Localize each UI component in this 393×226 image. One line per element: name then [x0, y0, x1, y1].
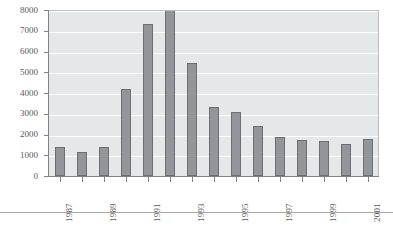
bar: [231, 112, 241, 176]
y-axis-tick-mark: [44, 52, 48, 53]
bar: [319, 141, 329, 176]
x-axis: 19871989199119931995199719992001: [0, 182, 393, 226]
bar: [187, 63, 197, 176]
bar-chart-figure: 010002000300040005000600070008000 198719…: [0, 0, 393, 226]
y-axis-tick-mark: [44, 72, 48, 73]
y-axis-tick-label: 6000: [0, 47, 38, 56]
y-axis-tick-label: 8000: [0, 6, 38, 15]
bar: [275, 137, 285, 176]
bottom-divider: [0, 212, 393, 213]
bar: [99, 147, 109, 176]
bar-series: [49, 11, 378, 176]
y-axis-tick-label: 5000: [0, 68, 38, 77]
bar: [209, 107, 219, 177]
bar: [297, 140, 307, 176]
bar: [165, 10, 175, 176]
y-axis-tick-mark: [44, 114, 48, 115]
y-axis-tick-label: 3000: [0, 109, 38, 118]
y-axis-tick-mark: [44, 31, 48, 32]
y-axis-tick-label: 7000: [0, 26, 38, 35]
y-axis-tick-mark: [44, 135, 48, 136]
y-axis-tick-label: 4000: [0, 89, 38, 98]
bar: [363, 139, 373, 176]
bar: [341, 144, 351, 176]
y-axis-tick-mark: [44, 93, 48, 94]
y-axis-tick-mark: [44, 155, 48, 156]
y-axis-tick-label: 2000: [0, 130, 38, 139]
bar: [121, 89, 131, 176]
plot-area: [49, 10, 379, 176]
y-axis-tick-mark: [44, 176, 48, 177]
y-axis-tick-label: 1000: [0, 151, 38, 160]
bar: [55, 147, 65, 176]
bar: [77, 152, 87, 176]
bar: [143, 24, 153, 177]
y-axis-tick-mark: [44, 10, 48, 11]
bar: [253, 126, 263, 176]
